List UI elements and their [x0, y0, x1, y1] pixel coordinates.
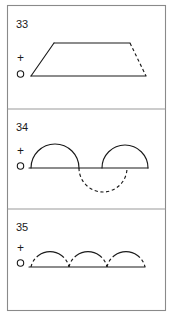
- panel-35-arc-2-fall: [100, 256, 108, 268]
- panel-34-arc-positive-2: [102, 145, 148, 168]
- panel-34: 34 +: [16, 121, 148, 192]
- panel-35-arc-1-crest: [39, 252, 62, 256]
- panel-33-number: 33: [16, 18, 28, 30]
- panel-34-polarity-plus: +: [17, 144, 24, 158]
- panel-33-falling-edge: [130, 43, 146, 76]
- panel-35-number: 35: [16, 221, 28, 233]
- panel-35-arc-3-crest: [115, 252, 138, 256]
- panel-35-arc-1-rise: [31, 256, 39, 268]
- panel-35-arc-1-fall: [62, 256, 70, 268]
- panel-35-polarity-plus: +: [17, 241, 24, 255]
- figure-sheet: 33 + 34 + 35 +: [0, 0, 174, 317]
- panel-35-polarity-zero-icon: [17, 260, 23, 266]
- panel-34-polarity-zero-icon: [17, 163, 23, 169]
- panel-34-arc-positive-1: [31, 144, 79, 168]
- panel-33-polarity-zero-icon: [17, 71, 23, 77]
- panel-35-arc-3-fall: [138, 256, 146, 268]
- panel-35-arc-3-rise: [107, 256, 115, 268]
- panel-35-arc-2-crest: [77, 252, 100, 256]
- panel-33-polarity-plus: +: [17, 51, 24, 65]
- panel-34-arc-negative-dashed: [79, 168, 127, 192]
- panel-35-arc-2-rise: [69, 256, 77, 268]
- panel-33-rising-edge: [31, 43, 54, 76]
- panel-34-number: 34: [16, 121, 28, 133]
- panel-33: 33 +: [16, 18, 146, 77]
- panel-35: 35 +: [16, 221, 145, 267]
